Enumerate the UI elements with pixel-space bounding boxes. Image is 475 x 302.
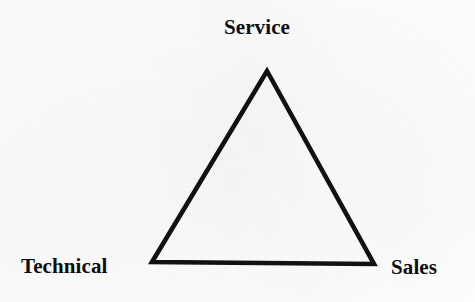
vertex-label-technical: Technical <box>21 256 107 277</box>
triangle-diagram: Service Technical Sales <box>0 0 475 302</box>
vertex-label-sales: Sales <box>391 257 437 278</box>
triangle-outline <box>152 71 374 264</box>
vertex-label-service: Service <box>224 17 290 38</box>
